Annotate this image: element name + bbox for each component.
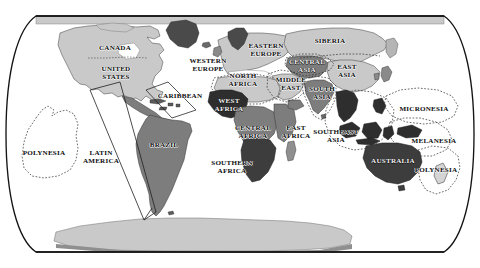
korea-shape xyxy=(374,73,379,80)
region-label-east-africa[interactable]: EAST AFRICA xyxy=(282,125,311,140)
region-label-polynesia-east[interactable]: POLYNESIA xyxy=(23,150,66,158)
region-label-australia[interactable]: AUSTRALIA xyxy=(371,158,415,166)
region-label-siberia[interactable]: SIBERIA xyxy=(315,38,346,46)
region-label-west-africa[interactable]: WEST AFRICA xyxy=(215,98,244,113)
region-label-central-africa[interactable]: CENTRAL AFRICA xyxy=(235,125,271,140)
region-label-north-africa[interactable]: NORTH AFRICA xyxy=(229,73,258,88)
region-label-micronesia[interactable]: MICRONESIA xyxy=(399,106,448,114)
region-label-middle-east[interactable]: MIDDLE EAST xyxy=(276,77,307,92)
region-label-central-asia[interactable]: CENTRAL ASIA xyxy=(289,59,325,74)
region-label-polynesia-west[interactable]: POLYNESIA xyxy=(415,167,458,175)
region-label-southern-africa[interactable]: SOUTHERN AFRICA xyxy=(211,160,253,175)
region-label-eastern-europe[interactable]: EASTERN EUROPE xyxy=(248,43,283,58)
region-label-east-asia[interactable]: EAST ASIA xyxy=(337,64,356,79)
region-label-brazil[interactable]: BRAZIL xyxy=(150,142,179,150)
region-label-western-europe[interactable]: WESTERN EUROPE xyxy=(189,58,226,73)
region-label-southeast-asia[interactable]: SOUTHEAST ASIA xyxy=(313,129,358,144)
region-label-canada[interactable]: CANADA xyxy=(99,45,131,53)
region-label-caribbean[interactable]: CARIBBEAN xyxy=(158,93,203,101)
region-label-melanesia[interactable]: MELANESIA xyxy=(412,138,457,146)
region-label-united-states[interactable]: UNITED STATES xyxy=(102,66,131,81)
tasmania-shape xyxy=(398,185,405,191)
world-map-container: CANADA UNITED STATES CARIBBEAN LATIN AME… xyxy=(0,0,480,268)
region-label-latin-america[interactable]: LATIN AMERICA xyxy=(83,150,119,165)
region-label-south-asia[interactable]: SOUTH ASIA xyxy=(309,86,335,101)
arctic-ice xyxy=(36,16,444,24)
